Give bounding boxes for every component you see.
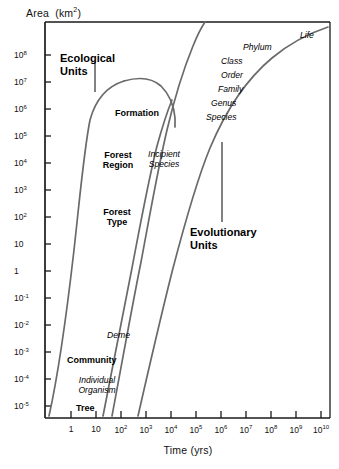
annotation-forest-region-line2: Region <box>103 160 134 170</box>
y-tick-label: 10-5 <box>14 401 29 412</box>
x-tick-label: 106 <box>215 424 228 435</box>
annotation-forest-region-line1: Forest <box>103 150 134 160</box>
annotation-class: Class <box>221 57 243 67</box>
annotation-forest-region: Forest Region <box>103 150 134 170</box>
series-ecological-envelope-right <box>124 79 175 127</box>
annotation-tree: Tree <box>76 403 95 413</box>
annotation-formation: Formation <box>115 108 159 118</box>
x-axis-title: Time (yrs) <box>164 444 213 456</box>
annotation-family: Family <box>218 85 243 95</box>
x-tick-label: 1 <box>69 424 74 434</box>
annotation-evolutionary-units-line2: Units <box>190 239 257 252</box>
x-axis-ticks <box>71 411 321 418</box>
x-tick-label: 104 <box>165 424 178 435</box>
y-axis-ticks <box>45 55 51 406</box>
x-tick-label: 10 <box>91 424 100 434</box>
x-tick-label: 103 <box>140 424 153 435</box>
x-tick-label: 109 <box>290 424 303 435</box>
y-tick-label: 106 <box>14 104 27 115</box>
annotation-deme: Deme <box>107 331 130 341</box>
x-tick-label: 1010 <box>313 424 329 435</box>
y-tick-label: 10-2 <box>14 320 29 331</box>
y-tick-label: 102 <box>14 212 27 223</box>
y-tick-label: 10-4 <box>14 374 29 385</box>
series-ecological-inner-boundary <box>103 100 172 416</box>
annotation-ecological-units-line1: Ecological <box>60 52 115 65</box>
annotation-ecological-units: Ecological Units <box>60 52 115 79</box>
y-tick-label: 10-3 <box>14 347 29 358</box>
annotation-species: Species <box>206 113 237 123</box>
annotation-forest-type-line1: Forest <box>103 207 131 217</box>
plot-canvas <box>0 0 339 469</box>
y-tick-label: 105 <box>14 131 27 142</box>
annotation-genus: Genus <box>211 99 236 109</box>
annotation-life: Life <box>300 31 314 41</box>
y-tick-label: 103 <box>14 185 27 196</box>
annotation-community: Community <box>67 355 117 365</box>
y-tick-label: 1 <box>14 266 19 276</box>
annotation-phylum: Phylum <box>243 43 272 53</box>
annotation-ecological-units-line2: Units <box>60 65 115 78</box>
x-tick-label: 102 <box>115 424 128 435</box>
x-tick-label: 108 <box>265 424 278 435</box>
annotation-individual-organism: Individual Organism <box>78 376 115 395</box>
annotation-order: Order <box>221 71 243 81</box>
y-tick-label: 10 <box>14 239 23 249</box>
annotation-incipient-species: Incipient Species <box>148 150 180 169</box>
y-tick-label: 107 <box>14 77 27 88</box>
annotation-individual-organism-line2: Organism <box>78 386 115 396</box>
y-tick-label: 10-1 <box>14 293 29 304</box>
annotation-evolutionary-units-line1: Evolutionary <box>190 226 257 239</box>
chart-root: Area (km2) <box>0 0 339 469</box>
y-tick-label: 108 <box>14 50 27 61</box>
y-tick-label: 104 <box>14 158 27 169</box>
x-tick-label: 107 <box>240 424 253 435</box>
annotation-evolutionary-units: Evolutionary Units <box>190 226 257 253</box>
annotation-forest-type-line2: Type <box>103 217 131 227</box>
annotation-forest-type: Forest Type <box>103 207 131 227</box>
x-tick-label: 105 <box>190 424 203 435</box>
annotation-incipient-species-line2: Species <box>148 160 180 170</box>
